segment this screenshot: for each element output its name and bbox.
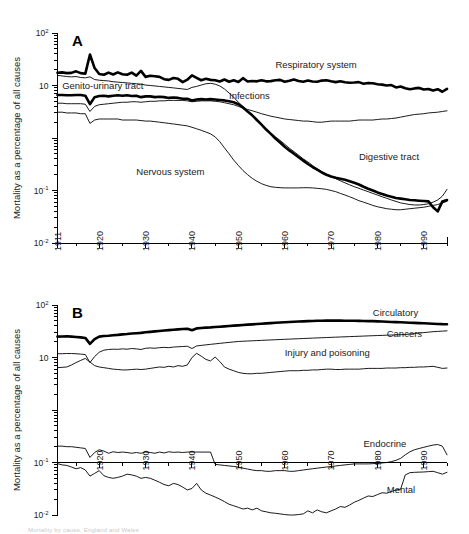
series-label: Mental — [387, 484, 416, 495]
series-line — [58, 353, 448, 373]
series-label: Nervous system — [136, 166, 204, 177]
y-axis-title: Mortality as a percentage of all causes — [11, 329, 22, 491]
x-tick-label: 1940 — [187, 231, 197, 251]
panel-letter: B — [72, 304, 83, 321]
x-tick-label: 1980 — [373, 450, 383, 470]
x-tick-label: 1930 — [141, 450, 151, 470]
x-tick-label: 1970 — [326, 450, 336, 470]
y-tick-label: 10-2 — [34, 238, 49, 249]
y-tick-label: 10 — [39, 353, 49, 363]
x-tick-label: 1940 — [187, 450, 197, 470]
y-tick-label: 10-1 — [34, 185, 49, 196]
series-label: Injury and poisoning — [285, 347, 370, 358]
x-tick-label: 1990 — [419, 231, 429, 251]
mortality-figure: 1021010-110-2191119201930194019501960197… — [0, 0, 469, 534]
x-tick-label: 1911 — [53, 232, 63, 251]
y-tick-label: 102 — [36, 300, 49, 311]
series-label: Endocrine — [364, 438, 407, 449]
y-axis-title: Mortality as a percentage of all causes — [11, 57, 22, 219]
y-tick-label: 10-1 — [34, 457, 49, 468]
panel-letter: A — [72, 32, 83, 49]
x-tick-label: 1950 — [234, 231, 244, 251]
x-tick-label: 1990 — [419, 450, 429, 470]
x-tick-label: 1980 — [373, 231, 383, 251]
y-tick-label: 10 — [39, 81, 49, 91]
y-tick-label: 102 — [36, 28, 49, 39]
series-label: Respiratory system — [275, 59, 356, 70]
panel-b: 1021010-110-2192019301940195019601970198… — [11, 300, 447, 521]
series-label: Cancers — [387, 328, 423, 339]
series-label: Genito-urinary tract — [62, 80, 144, 91]
series-label: Infections — [229, 90, 270, 101]
x-tick-label: 1920 — [95, 231, 105, 251]
x-tick-label: 1920 — [95, 450, 105, 470]
x-tick-label: 1970 — [326, 231, 336, 251]
x-tick-label: 1960 — [280, 231, 290, 251]
x-tick-label: 1930 — [141, 231, 151, 251]
chart-canvas: 1021010-110-2191119201930194019501960197… — [0, 0, 469, 534]
y-tick-label: 10-2 — [34, 510, 49, 521]
series-label: Circulatory — [373, 307, 419, 318]
series-label: Digestive tract — [359, 151, 420, 162]
panel-a: 1021010-110-2191119201930194019501960197… — [11, 28, 447, 251]
figure-caption: Mortality by cause, England and Wales — [28, 527, 139, 533]
x-tick-label: 1960 — [280, 450, 290, 470]
